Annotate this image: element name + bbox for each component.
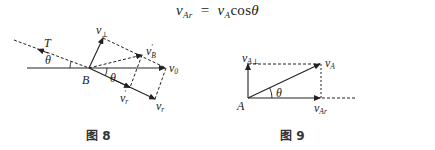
label-theta: θ bbox=[276, 86, 282, 100]
label-B: B bbox=[82, 73, 90, 87]
figure-8: T θ B θ v⊥ vB' v0 vr' vr 图 8 bbox=[14, 23, 178, 143]
dashed-v0-to-vr bbox=[155, 68, 166, 99]
dashed-perp-to-v0 bbox=[103, 38, 166, 68]
theta-arc-left bbox=[70, 61, 71, 68]
label-v-r: vr bbox=[156, 99, 164, 114]
diagram-canvas: T θ B θ v⊥ vB' v0 vr' vr 图 8 A θ vA⊥ vA … bbox=[0, 0, 435, 150]
theta-arc bbox=[270, 88, 272, 98]
label-v-a-perp: vA⊥ bbox=[242, 51, 259, 66]
label-v0: v0 bbox=[169, 61, 178, 76]
figure-9-caption: 图 9 bbox=[280, 129, 305, 143]
label-v-a: vA bbox=[325, 56, 335, 71]
v-b-prime-vector bbox=[89, 55, 142, 68]
v-a-vector bbox=[248, 64, 320, 98]
theta-arc-right bbox=[105, 68, 107, 76]
label-v-perp: v⊥ bbox=[96, 23, 108, 39]
label-v-ar: vAr bbox=[314, 101, 327, 116]
v-perp-vector bbox=[89, 38, 103, 68]
figure-9: A θ vA⊥ vA vAr 图 9 bbox=[236, 51, 356, 143]
dashed-vb-to-vr-prime bbox=[130, 55, 142, 88]
label-v-r-prime: vr' bbox=[120, 89, 128, 106]
label-theta-right: θ bbox=[110, 71, 116, 85]
label-T: T bbox=[44, 36, 52, 50]
label-theta-left: θ bbox=[45, 53, 51, 67]
label-A: A bbox=[236, 99, 245, 113]
rope-dashed-line bbox=[14, 40, 89, 68]
label-v-b-prime: vB' bbox=[146, 43, 156, 60]
figure-8-caption: 图 8 bbox=[86, 129, 111, 143]
